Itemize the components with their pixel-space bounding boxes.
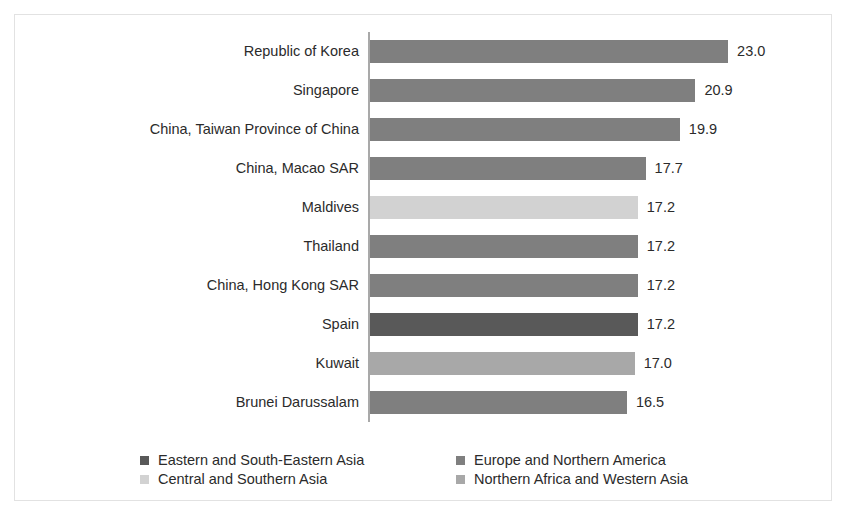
bar-category-label: Kuwait (29, 356, 359, 371)
bar-value-label: 20.9 (704, 83, 732, 98)
bar-rect[interactable] (370, 196, 638, 219)
bar-value-label: 17.2 (647, 317, 675, 332)
bar-row: China, Hong Kong SAR17.2 (0, 266, 818, 305)
bar-rect[interactable] (370, 313, 638, 336)
bar-track: 17.2 (370, 188, 675, 227)
bar-row: Thailand17.2 (0, 227, 818, 266)
legend-label: Central and Southern Asia (158, 472, 327, 487)
legend-swatch-icon (140, 456, 149, 465)
bar-value-label: 23.0 (737, 44, 765, 59)
bar-category-label: Thailand (29, 239, 359, 254)
bar-rect[interactable] (370, 274, 638, 297)
bar-row: Kuwait17.0 (0, 344, 818, 383)
bar-row: Singapore20.9 (0, 71, 818, 110)
legend-label: Northern Africa and Western Asia (474, 472, 688, 487)
bar-track: 17.7 (370, 149, 683, 188)
bar-track: 17.2 (370, 266, 675, 305)
bar-rect[interactable] (370, 391, 627, 414)
bar-row: Maldives17.2 (0, 188, 818, 227)
bar-row: Republic of Korea23.0 (0, 32, 818, 71)
bar-row: China, Taiwan Province of China19.9 (0, 110, 818, 149)
bar-track: 17.0 (370, 344, 672, 383)
bar-row: Spain17.2 (0, 305, 818, 344)
plot-area: Republic of Korea23.0Singapore20.9China,… (0, 24, 818, 430)
bar-rect[interactable] (370, 118, 680, 141)
bar-category-label: Spain (29, 317, 359, 332)
bar-rect[interactable] (370, 79, 695, 102)
bar-category-label: China, Macao SAR (29, 161, 359, 176)
legend-entry[interactable]: Europe and Northern America (456, 453, 666, 468)
legend-label: Europe and Northern America (474, 453, 666, 468)
bar-track: 17.2 (370, 227, 675, 266)
bar-category-label: China, Hong Kong SAR (29, 278, 359, 293)
bar-value-label: 19.9 (689, 122, 717, 137)
legend-entry[interactable]: Eastern and South-Eastern Asia (140, 453, 364, 468)
bar-category-label: China, Taiwan Province of China (29, 122, 359, 137)
bar-rect[interactable] (370, 157, 646, 180)
chart-legend: Eastern and South-Eastern AsiaEurope and… (0, 449, 818, 493)
bar-track: 16.5 (370, 383, 664, 422)
bar-row: Brunei Darussalam16.5 (0, 383, 818, 422)
bar-rect[interactable] (370, 352, 635, 375)
bar-category-label: Republic of Korea (29, 44, 359, 59)
legend-entry[interactable]: Northern Africa and Western Asia (456, 472, 688, 487)
bar-track: 20.9 (370, 71, 733, 110)
bar-rect[interactable] (370, 235, 638, 258)
bar-category-label: Singapore (29, 83, 359, 98)
bar-category-label: Maldives (29, 200, 359, 215)
bar-value-label: 17.0 (644, 356, 672, 371)
bar-track: 23.0 (370, 32, 765, 71)
bar-rect[interactable] (370, 40, 728, 63)
legend-swatch-icon (456, 456, 465, 465)
bar-row: China, Macao SAR17.7 (0, 149, 818, 188)
bar-track: 17.2 (370, 305, 675, 344)
bar-value-label: 17.2 (647, 278, 675, 293)
legend-label: Eastern and South-Eastern Asia (158, 453, 364, 468)
bar-value-label: 17.2 (647, 239, 675, 254)
bar-value-label: 17.2 (647, 200, 675, 215)
bar-chart-figure: Republic of Korea23.0Singapore20.9China,… (0, 0, 848, 531)
legend-entry[interactable]: Central and Southern Asia (140, 472, 327, 487)
bar-value-label: 17.7 (655, 161, 683, 176)
bar-value-label: 16.5 (636, 395, 664, 410)
bar-track: 19.9 (370, 110, 717, 149)
legend-swatch-icon (456, 475, 465, 484)
legend-swatch-icon (140, 475, 149, 484)
bar-category-label: Brunei Darussalam (29, 395, 359, 410)
